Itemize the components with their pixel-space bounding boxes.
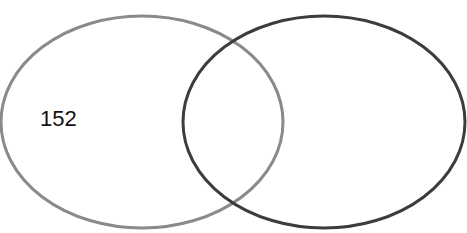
set-b-ellipse — [183, 16, 465, 228]
set-a-count: 152 — [40, 106, 77, 132]
